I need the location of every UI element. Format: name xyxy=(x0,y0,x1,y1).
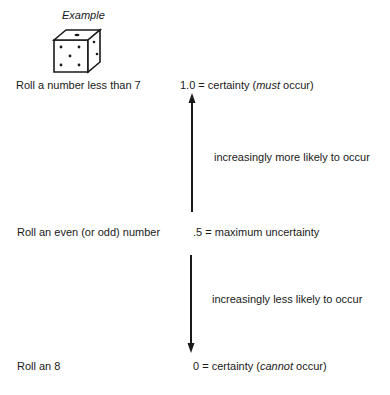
event-label-impossible: Roll an 8 xyxy=(17,361,60,372)
event-label-even-odd: Roll an even (or odd) number xyxy=(17,227,160,238)
scale-bottom-desc-post: occur) xyxy=(293,360,327,372)
example-label: Example xyxy=(62,10,105,21)
arrow-up-icon xyxy=(186,93,198,213)
scale-top-desc-pre: certainty ( xyxy=(208,79,256,91)
die-icon xyxy=(52,26,108,76)
scale-middle-equals: = xyxy=(205,226,211,238)
arrow-up-label: increasingly more likely to occur xyxy=(214,152,370,163)
arrow-down-icon xyxy=(185,255,197,355)
scale-top-value: 1.0 xyxy=(180,79,195,91)
event-label-certain: Roll a number less than 7 xyxy=(16,80,141,91)
scale-top: 1.0 = certainty (must occur) xyxy=(180,80,314,91)
scale-bottom-desc-em: cannot xyxy=(260,360,293,372)
arrow-down-label: increasingly less likely to occur xyxy=(212,294,362,305)
scale-top-equals: = xyxy=(198,79,204,91)
scale-middle: .5 = maximum uncertainty xyxy=(193,227,319,238)
scale-bottom-desc-pre: certainty ( xyxy=(212,360,260,372)
scale-middle-value: .5 xyxy=(193,226,202,238)
scale-bottom-value: 0 xyxy=(193,360,199,372)
scale-top-desc-em: must xyxy=(256,79,280,91)
scale-middle-desc: maximum uncertainty xyxy=(215,226,320,238)
scale-top-desc-post: occur) xyxy=(280,79,314,91)
scale-bottom: 0 = certainty (cannot occur) xyxy=(193,361,327,372)
scale-bottom-equals: = xyxy=(202,360,208,372)
